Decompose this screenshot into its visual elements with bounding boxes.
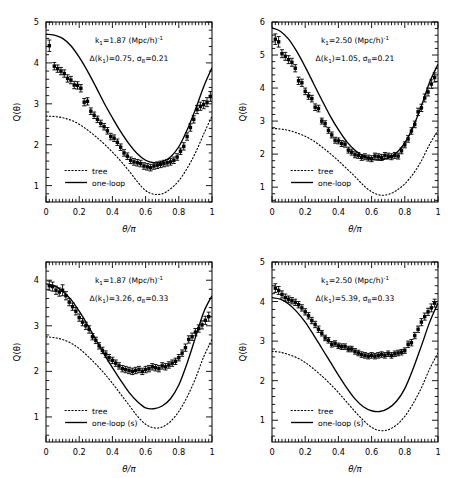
y-axis-label: Q(θ) — [238, 343, 248, 362]
x-tick-labels: 00.20.40.60.81 — [43, 447, 214, 457]
y-axis-label: Q(θ) — [12, 343, 22, 362]
x-tick-labels: 00.20.40.60.81 — [43, 207, 214, 217]
annotation-k1: k1=2.50 (Mpc/h)-1 — [321, 35, 390, 46]
curve-tree — [272, 128, 438, 195]
annotation-delta-sigma: Δ(k1)=5.39, σ8=0.33 — [316, 294, 395, 304]
x-tick-labels: 00.20.40.60.81 — [269, 447, 440, 457]
svg-text:4: 4 — [34, 58, 39, 68]
y-tick-labels: 12345 — [34, 17, 39, 191]
curve-one-loop — [272, 28, 438, 160]
svg-text:4: 4 — [260, 297, 265, 307]
svg-text:3: 3 — [34, 99, 39, 109]
annotation-delta-sigma: Δ(k1)=1.05, σ8=0.21 — [316, 54, 395, 64]
panel-bottom-left: 00.20.40.60.811234θ/πQ(θ)k1=1.87 (Mpc/h)… — [0, 240, 226, 478]
panel-bottom-right: 00.20.40.60.8112345θ/πQ(θ)k1=2.50 (Mpc/h… — [226, 240, 452, 478]
y-tick-labels: 1234 — [34, 275, 39, 422]
svg-text:1: 1 — [260, 182, 265, 192]
x-axis-label: θ/π — [348, 464, 362, 474]
y-axis-ticks — [46, 22, 212, 202]
legend-label-tree: tree — [318, 407, 334, 416]
svg-text:0.8: 0.8 — [172, 447, 185, 457]
svg-text:3: 3 — [34, 321, 39, 331]
svg-text:1: 1 — [34, 181, 39, 191]
legend: treeone-loop — [291, 167, 351, 188]
svg-text:0.8: 0.8 — [398, 207, 411, 217]
curve-tree — [46, 337, 212, 428]
x-axis-ticks — [272, 22, 438, 202]
x-axis-label: θ/π — [122, 224, 136, 234]
annotation-delta-sigma: Δ(k1)=3.26, σ8=0.33 — [90, 294, 169, 304]
curve-one-loop — [272, 298, 438, 412]
svg-text:6: 6 — [260, 17, 265, 27]
svg-text:2: 2 — [260, 376, 265, 386]
x-tick-labels: 00.20.40.60.81 — [269, 207, 440, 217]
svg-text:1: 1 — [260, 415, 265, 425]
svg-text:0: 0 — [43, 447, 48, 457]
annotation-delta-sigma: Δ(k1)=0.75, σ8=0.21 — [90, 54, 169, 64]
legend-label-one-loop: one-loop (s) — [318, 419, 363, 428]
x-axis-ticks — [46, 262, 212, 442]
svg-text:5: 5 — [260, 50, 265, 60]
svg-text:2: 2 — [34, 366, 39, 376]
legend: treeone-loop (s) — [65, 407, 137, 428]
svg-text:0.6: 0.6 — [365, 447, 378, 457]
svg-text:0.4: 0.4 — [106, 207, 119, 217]
annotation-k1: k1=1.87 (Mpc/h)-1 — [95, 275, 164, 286]
svg-text:0.8: 0.8 — [172, 207, 185, 217]
x-axis-label: θ/π — [122, 464, 136, 474]
plot-frame — [46, 22, 212, 202]
svg-text:0: 0 — [269, 207, 274, 217]
svg-text:1: 1 — [209, 447, 214, 457]
y-axis-label: Q(θ) — [12, 103, 22, 122]
svg-text:0.2: 0.2 — [299, 447, 312, 457]
svg-text:1: 1 — [34, 412, 39, 422]
svg-text:0.4: 0.4 — [332, 447, 345, 457]
legend: treeone-loop — [65, 167, 125, 188]
svg-text:2: 2 — [34, 140, 39, 150]
svg-text:2: 2 — [260, 149, 265, 159]
legend-label-tree: tree — [92, 167, 108, 176]
svg-text:0: 0 — [269, 447, 274, 457]
legend-label-tree: tree — [92, 407, 108, 416]
plot-frame — [46, 262, 212, 442]
svg-text:3: 3 — [260, 116, 265, 126]
y-axis-label: Q(θ) — [238, 103, 248, 122]
svg-text:0: 0 — [43, 207, 48, 217]
panel-top-left: 00.20.40.60.8112345θ/πQ(θ)k1=1.87 (Mpc/h… — [0, 0, 226, 238]
svg-text:5: 5 — [260, 257, 265, 267]
svg-text:1: 1 — [435, 447, 440, 457]
x-axis-ticks — [46, 22, 212, 202]
svg-text:0.8: 0.8 — [398, 447, 411, 457]
svg-text:0.2: 0.2 — [299, 207, 312, 217]
x-axis-label: θ/π — [348, 224, 362, 234]
svg-text:0.4: 0.4 — [106, 447, 119, 457]
legend-label-one-loop: one-loop — [92, 179, 125, 188]
annotation-k1: k1=2.50 (Mpc/h)-1 — [321, 275, 390, 286]
svg-text:5: 5 — [34, 17, 39, 27]
annotation-k1: k1=1.87 (Mpc/h)-1 — [95, 35, 164, 46]
panel-top-right: 00.20.40.60.81123456θ/πQ(θ)k1=2.50 (Mpc/… — [226, 0, 452, 238]
svg-text:0.2: 0.2 — [73, 207, 86, 217]
svg-text:0.4: 0.4 — [332, 207, 345, 217]
plot-frame — [272, 22, 438, 202]
svg-text:4: 4 — [34, 275, 39, 285]
svg-text:0.6: 0.6 — [365, 207, 378, 217]
legend-label-tree: tree — [318, 167, 334, 176]
svg-text:1: 1 — [209, 207, 214, 217]
svg-text:0.6: 0.6 — [139, 207, 152, 217]
legend-label-one-loop: one-loop (s) — [92, 419, 137, 428]
svg-text:0.6: 0.6 — [139, 447, 152, 457]
y-tick-labels: 123456 — [260, 17, 265, 192]
svg-text:1: 1 — [435, 207, 440, 217]
svg-text:0.2: 0.2 — [73, 447, 86, 457]
legend-label-one-loop: one-loop — [318, 179, 351, 188]
svg-text:3: 3 — [260, 336, 265, 346]
svg-text:4: 4 — [260, 83, 265, 93]
figure-four-panel-bispectrum: 00.20.40.60.8112345θ/πQ(θ)k1=1.87 (Mpc/h… — [0, 0, 452, 478]
y-tick-labels: 12345 — [260, 257, 265, 425]
